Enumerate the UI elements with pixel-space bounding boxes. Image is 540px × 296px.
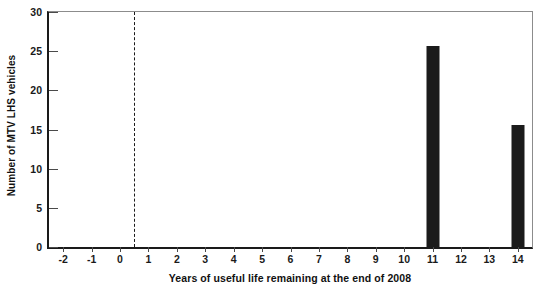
x-axis-tick-label: 1 [146, 253, 152, 265]
x-axis-tick-label: 6 [288, 253, 294, 265]
bar [511, 125, 524, 247]
x-axis-tick-label: 8 [344, 253, 350, 265]
y-axis-tick-label: 20 [30, 84, 42, 96]
x-axis-tick [92, 247, 93, 252]
reference-dashed-line [134, 12, 135, 247]
y-axis-tick [49, 130, 58, 131]
x-axis-tick-label: 13 [484, 253, 496, 265]
x-axis-tick [433, 247, 434, 252]
x-axis-tick [148, 247, 149, 252]
x-axis-tick [518, 247, 519, 252]
y-axis-tick-label: 30 [30, 6, 42, 18]
y-axis-tick-label: 0 [36, 241, 42, 253]
x-axis-tick-label: 3 [202, 253, 208, 265]
x-axis-tick-label: -2 [59, 253, 68, 265]
y-axis-tick [49, 90, 58, 91]
x-axis-tick [376, 247, 377, 252]
x-axis-tick [291, 247, 292, 252]
x-axis-tick [63, 247, 64, 252]
x-axis-tick [205, 247, 206, 252]
y-axis-tick-label: 25 [30, 45, 42, 57]
x-axis-tick-label: -1 [87, 253, 96, 265]
x-axis-tick [177, 247, 178, 252]
y-axis-tick [49, 12, 58, 13]
x-axis-tick [262, 247, 263, 252]
x-axis-tick [234, 247, 235, 252]
y-axis-tick [49, 51, 58, 52]
x-axis-tick-label: 4 [231, 253, 237, 265]
x-axis-tick-label: 2 [174, 253, 180, 265]
x-axis-title: Years of useful life remaining at the en… [47, 272, 533, 284]
x-axis-tick [461, 247, 462, 252]
x-axis-tick-label: 12 [455, 253, 467, 265]
y-axis-tick-label: 15 [30, 124, 42, 136]
y-axis-tick [49, 169, 58, 170]
x-axis-tick-label: 14 [512, 253, 524, 265]
plot-area: 051015202530-2-101234567891011121314 [47, 11, 533, 249]
x-axis-tick-label: 10 [398, 253, 410, 265]
x-axis-tick [120, 247, 121, 252]
x-axis-tick [489, 247, 490, 252]
y-axis-title: Number of MTV LHS vehicles [0, 0, 24, 250]
x-axis-tick [319, 247, 320, 252]
x-axis-tick [404, 247, 405, 252]
x-axis-tick-label: 5 [259, 253, 265, 265]
y-axis-tick [49, 208, 58, 209]
y-axis-tick-label: 10 [30, 163, 42, 175]
y-axis-tick-label: 5 [36, 202, 42, 214]
bar-chart-figure: Number of MTV LHS vehicles 051015202530-… [0, 0, 540, 296]
y-axis-title-text: Number of MTV LHS vehicles [7, 54, 18, 196]
x-axis-tick-label: 0 [117, 253, 123, 265]
x-axis-tick-label: 9 [373, 253, 379, 265]
x-axis-tick [347, 247, 348, 252]
bar [426, 46, 439, 247]
x-axis-tick-label: 11 [427, 253, 438, 265]
y-axis-tick [49, 247, 58, 248]
x-axis-tick-label: 7 [316, 253, 322, 265]
